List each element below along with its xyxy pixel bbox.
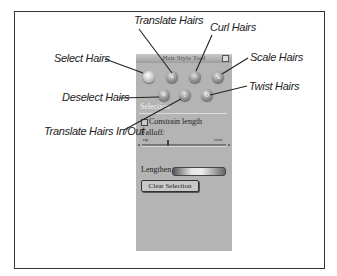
callout-curl-hairs: Curl Hairs [210,21,256,33]
callout-translate-in-out: Translate Hairs In/Out [44,125,144,137]
callout-select-hairs: Select Hairs [54,52,110,64]
callout-leader-lines [0,0,337,276]
callout-deselect-hairs: Deselect Hairs [62,91,129,103]
callout-translate-hairs: Translate Hairs [134,14,203,26]
callout-scale-hairs: Scale Hairs [250,51,303,63]
callout-twist-hairs: Twist Hairs [249,80,299,92]
